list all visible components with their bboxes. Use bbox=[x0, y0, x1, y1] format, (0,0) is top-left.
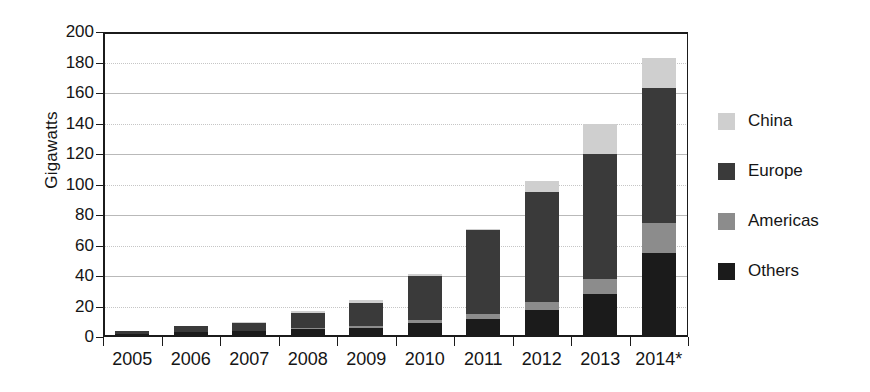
y-tick-mark bbox=[96, 124, 103, 125]
x-tick-label: 2007 bbox=[229, 349, 269, 370]
legend-swatch-icon bbox=[718, 263, 735, 280]
y-tick-label: 20 bbox=[75, 297, 94, 317]
bar-segment-others[interactable] bbox=[642, 253, 676, 337]
plot-border-top bbox=[103, 32, 688, 34]
x-tick-mark bbox=[279, 337, 280, 346]
stacked-bar-chart: Gigawatts 020406080100120140160180200 20… bbox=[0, 0, 870, 392]
y-tick-mark bbox=[96, 215, 103, 216]
bar-segment-china[interactable] bbox=[525, 181, 559, 192]
y-tick-mark bbox=[96, 276, 103, 277]
bar-segment-europe[interactable] bbox=[466, 230, 500, 314]
bar-segment-others[interactable] bbox=[583, 294, 617, 337]
y-tick-mark bbox=[96, 337, 103, 338]
bar-segment-europe[interactable] bbox=[349, 303, 383, 326]
x-tick-mark bbox=[220, 337, 221, 346]
x-tick-label: 2014* bbox=[635, 349, 682, 370]
x-tick-label: 2013 bbox=[580, 349, 620, 370]
y-tick-label: 60 bbox=[75, 236, 94, 256]
y-tick-label: 0 bbox=[85, 327, 94, 347]
x-tick-mark bbox=[162, 337, 163, 346]
bar-segment-china[interactable] bbox=[291, 311, 325, 313]
bar-segment-europe[interactable] bbox=[642, 88, 676, 222]
x-tick-mark bbox=[513, 337, 514, 346]
bar-segment-others[interactable] bbox=[525, 310, 559, 337]
legend-item-europe[interactable]: Europe bbox=[718, 146, 868, 196]
bar-segment-europe[interactable] bbox=[583, 154, 617, 279]
x-tick-label: 2006 bbox=[171, 349, 211, 370]
x-tick-label: 2009 bbox=[346, 349, 386, 370]
bar-segment-americas[interactable] bbox=[642, 223, 676, 254]
y-tick-mark bbox=[96, 246, 103, 247]
y-axis-line bbox=[103, 32, 105, 337]
legend-label: China bbox=[748, 111, 792, 131]
legend-swatch-icon bbox=[718, 113, 735, 130]
legend-label: Europe bbox=[748, 161, 803, 181]
y-tick-label: 120 bbox=[66, 144, 94, 164]
legend-label: Others bbox=[748, 261, 799, 281]
bar-segment-americas[interactable] bbox=[408, 320, 442, 323]
bar-segment-europe[interactable] bbox=[115, 331, 149, 334]
bar-segment-china[interactable] bbox=[466, 229, 500, 231]
gridline bbox=[103, 93, 688, 94]
legend-swatch-icon bbox=[718, 163, 735, 180]
bar-segment-americas[interactable] bbox=[525, 302, 559, 310]
y-tick-mark bbox=[96, 307, 103, 308]
x-tick-label: 2008 bbox=[288, 349, 328, 370]
x-axis-line bbox=[103, 335, 688, 337]
y-tick-label: 80 bbox=[75, 205, 94, 225]
legend-label: Americas bbox=[748, 211, 819, 231]
x-tick-mark bbox=[337, 337, 338, 346]
x-tick-label: 2005 bbox=[112, 349, 152, 370]
bar-segment-europe[interactable] bbox=[232, 323, 266, 331]
x-tick-mark bbox=[688, 337, 689, 346]
legend-swatch-icon bbox=[718, 213, 735, 230]
bar-segment-china[interactable] bbox=[232, 322, 266, 324]
bar-segment-americas[interactable] bbox=[349, 326, 383, 328]
y-tick-mark bbox=[96, 154, 103, 155]
legend-item-china[interactable]: China bbox=[718, 96, 868, 146]
bar-segment-europe[interactable] bbox=[525, 192, 559, 302]
x-tick-mark bbox=[630, 337, 631, 346]
y-axis-title: Gigawatts bbox=[42, 50, 62, 250]
bar-segment-china[interactable] bbox=[349, 300, 383, 303]
bar-segment-americas[interactable] bbox=[583, 279, 617, 294]
x-tick-mark bbox=[396, 337, 397, 346]
bar-segment-europe[interactable] bbox=[174, 326, 208, 332]
y-tick-label: 200 bbox=[66, 22, 94, 42]
legend-item-others[interactable]: Others bbox=[718, 246, 868, 296]
y-tick-label: 40 bbox=[75, 266, 94, 286]
bar-segment-china[interactable] bbox=[408, 274, 442, 276]
plot-area: 020406080100120140160180200 200520062007… bbox=[103, 32, 688, 337]
x-tick-mark bbox=[571, 337, 572, 346]
x-tick-label: 2010 bbox=[405, 349, 445, 370]
bar-segment-americas[interactable] bbox=[466, 314, 500, 319]
bar-segment-europe[interactable] bbox=[408, 276, 442, 320]
plot-border-right bbox=[687, 32, 688, 337]
y-tick-mark bbox=[96, 32, 103, 33]
y-tick-mark bbox=[96, 63, 103, 64]
legend: ChinaEuropeAmericasOthers bbox=[718, 96, 868, 296]
y-tick-mark bbox=[96, 93, 103, 94]
x-tick-label: 2012 bbox=[522, 349, 562, 370]
y-tick-label: 160 bbox=[66, 83, 94, 103]
x-tick-mark bbox=[454, 337, 455, 346]
gridline bbox=[103, 63, 688, 64]
bar-segment-europe[interactable] bbox=[291, 313, 325, 328]
legend-item-americas[interactable]: Americas bbox=[718, 196, 868, 246]
x-tick-label: 2011 bbox=[464, 349, 503, 370]
bar-segment-china[interactable] bbox=[642, 58, 676, 89]
y-tick-label: 180 bbox=[66, 53, 94, 73]
bar-segment-americas[interactable] bbox=[291, 328, 325, 330]
x-tick-mark bbox=[103, 337, 104, 346]
bar-segment-china[interactable] bbox=[583, 124, 617, 155]
y-tick-label: 100 bbox=[66, 175, 94, 195]
y-tick-label: 140 bbox=[66, 114, 94, 134]
y-tick-mark bbox=[96, 185, 103, 186]
